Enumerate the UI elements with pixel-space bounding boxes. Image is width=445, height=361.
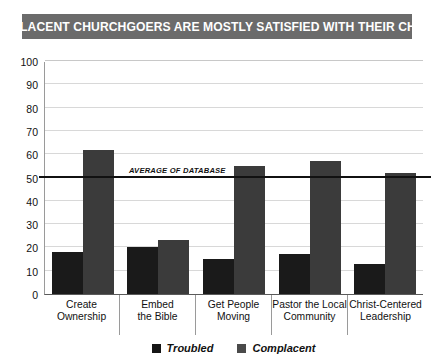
bar-troubled[interactable] (279, 254, 310, 294)
bar-complacent[interactable] (234, 166, 265, 294)
chart-container: 1009080706050403020100 AVERAGE OF DATABA… (0, 48, 445, 361)
y-axis-tick-20: 20 (26, 242, 38, 254)
x-axis-label-2: Embedthe Bible (120, 295, 196, 335)
bar-complacent[interactable] (83, 150, 114, 294)
average-of-database-label: AVERAGE OF DATABASE (129, 166, 226, 175)
y-axis-tick-50: 50 (26, 173, 38, 185)
gridline-100 (45, 60, 423, 61)
legend-label: Troubled (167, 342, 214, 354)
bar-series-group (45, 62, 423, 294)
page-title: COMPLACENT CHURCHGOERS ARE MOSTLY SATISF… (22, 20, 412, 33)
x-axis-label-line2: Ownership (44, 311, 119, 323)
bar-troubled[interactable] (203, 259, 234, 294)
y-axis-tick-100: 100 (20, 56, 38, 68)
bar-complacent[interactable] (158, 240, 189, 294)
plot-area: AVERAGE OF DATABASE (44, 62, 423, 295)
x-axis-category-labels: CreateOwnershipEmbedthe BibleGet PeopleM… (44, 295, 423, 335)
y-axis-tick-70: 70 (26, 126, 38, 138)
legend-swatch-icon (237, 344, 246, 353)
y-axis-tick-90: 90 (26, 79, 38, 91)
legend-label: Complacent (252, 342, 315, 354)
legend-item-troubled[interactable]: Troubled (152, 342, 214, 354)
bar-complacent[interactable] (310, 161, 341, 294)
y-axis-tick-80: 80 (26, 103, 38, 115)
chart-legend: TroubledComplacent (44, 338, 423, 358)
average-of-database-line (39, 176, 431, 178)
x-axis-label-4: Pastor the LocalCommunity (272, 295, 348, 335)
y-axis-tick-60: 60 (26, 149, 38, 161)
x-axis-label-1: CreateOwnership (44, 295, 120, 335)
bar-troubled[interactable] (127, 247, 158, 294)
chart-title-banner: COMPLACENT CHURCHGOERS ARE MOSTLY SATISF… (22, 14, 412, 39)
x-axis-label-3: Get PeopleMoving (196, 295, 272, 335)
y-axis-tick-40: 40 (26, 196, 38, 208)
x-axis-label-line2: Community (272, 311, 347, 323)
bar-group (121, 62, 197, 294)
y-axis: 1009080706050403020100 (0, 48, 44, 295)
x-axis-label-line2: Moving (196, 311, 271, 323)
x-axis-label-line1: Christ-Centered (348, 299, 423, 311)
bar-group (347, 62, 423, 294)
x-axis-label-line1: Pastor the Local (272, 299, 347, 311)
bar-group (45, 62, 121, 294)
legend-swatch-icon (152, 344, 161, 353)
y-axis-tick-0: 0 (32, 289, 38, 301)
x-axis-label-line1: Embed (120, 299, 195, 311)
x-axis-label-5: Christ-CenteredLeadership (348, 295, 423, 335)
bar-troubled[interactable] (354, 264, 385, 294)
y-axis-tick-30: 30 (26, 219, 38, 231)
bar-troubled[interactable] (52, 252, 83, 294)
bar-group (196, 62, 272, 294)
x-axis-label-line1: Get People (196, 299, 271, 311)
x-axis-label-line1: Create (44, 299, 119, 311)
x-axis-label-line2: Leadership (348, 311, 423, 323)
legend-item-complacent[interactable]: Complacent (237, 342, 315, 354)
bar-group (272, 62, 348, 294)
y-axis-tick-10: 10 (26, 266, 38, 278)
x-axis-label-line2: the Bible (120, 311, 195, 323)
bar-complacent[interactable] (385, 173, 416, 294)
